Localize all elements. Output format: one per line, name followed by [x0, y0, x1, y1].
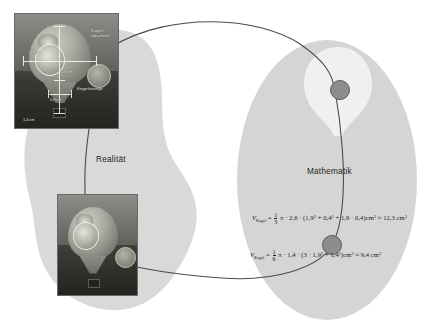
fraction-denominator: 6 — [273, 255, 276, 262]
dim-label-height: 2,6 cm — [61, 70, 72, 74]
connector-node-upper[interactable] — [331, 81, 350, 100]
photo-label-kugelabschnitt: Kugel- abschnitt — [91, 28, 109, 38]
region-label-mathematik: Mathematik — [307, 167, 352, 176]
photo-content — [58, 195, 137, 295]
fraction-numerator: 1 — [274, 212, 277, 218]
formula-exponent-b: 2 — [339, 251, 341, 256]
photo-label-kegelstumpf: Kegelstumpf — [77, 86, 103, 91]
balloon-crest-icon — [73, 222, 99, 250]
lower-width-tick-left — [48, 90, 49, 98]
height-measure-tick-mid — [54, 80, 65, 81]
dim-label-small: 0,8 cm — [50, 98, 61, 102]
formula-spherical-cap-volume: VKugel = 1 6 π · 1,4 · (3 · 1,92 + 1,42)… — [250, 249, 381, 263]
lower-width-measure-line — [48, 94, 72, 95]
dim-label-bottom: 1,4 cm — [23, 118, 34, 122]
formula-body-b: + 1,4 — [323, 251, 339, 258]
formula-body-c: )cm — [341, 251, 351, 258]
formula-exponent-a: 2 — [321, 251, 323, 256]
formula-relation: = — [266, 251, 270, 258]
formula-fraction: 1 3 — [274, 212, 277, 226]
formula-body-a: π · 1,4 · (3 · 1,9 — [278, 251, 321, 258]
lower-width-tick-right — [71, 90, 72, 98]
formula-approx: ≈ 12,3 cm — [378, 214, 405, 221]
formula-frustum-volume: VKegel = 1 3 π · 2,6 · (1,92 + 0,42 + 1,… — [252, 212, 407, 226]
balloon-basket-icon — [88, 279, 100, 288]
formula-body-c: + 1,9 · 0,4)cm — [334, 214, 374, 221]
region-label-realitaet: Realität — [96, 155, 126, 164]
width-measure-tick-left — [23, 56, 24, 66]
formula-exponent-result: 3 — [405, 214, 407, 219]
formula-subscript: Kegel — [256, 218, 266, 223]
formula-exponent-c: 3 — [374, 214, 376, 219]
fraction-numerator: 1 — [273, 249, 276, 255]
formula-exponent-c: 3 — [351, 251, 353, 256]
formula-relation: = — [268, 214, 272, 221]
fraction-denominator: 3 — [274, 218, 277, 225]
dim-label-width: 3,8 cm — [29, 50, 40, 54]
formula-body-b: + 0,4 — [316, 214, 332, 221]
formula-subscript: Kugel — [254, 255, 264, 260]
height-measure-tick-top — [54, 26, 65, 27]
annotated-balloon-photo[interactable]: Kugel- abschnitt Kegelstumpf 3,8 cm 2,6 … — [14, 13, 119, 129]
formula-body-a: π · 2,6 · (1,9 — [280, 214, 314, 221]
height-measure-tick-bottom — [54, 113, 65, 114]
formula-approx: ≈ 9,4 cm — [355, 251, 379, 258]
photo-content: Kugel- abschnitt Kegelstumpf 3,8 cm 2,6 … — [15, 14, 118, 128]
formula-exponent-result: 3 — [379, 251, 381, 256]
width-measure-line — [23, 61, 97, 62]
connector-curve-top — [113, 22, 335, 90]
formula-fraction: 1 6 — [273, 249, 276, 263]
plain-balloon-photo[interactable] — [57, 194, 138, 296]
formula-exponent-b: 2 — [332, 214, 334, 219]
secondary-balloon-icon — [115, 247, 136, 268]
formula-exponent-a: 2 — [314, 214, 316, 219]
diagram-canvas: Kugel- abschnitt Kegelstumpf 3,8 cm 2,6 … — [0, 0, 433, 334]
secondary-balloon-icon — [87, 64, 111, 88]
width-measure-tick-right — [96, 56, 97, 66]
